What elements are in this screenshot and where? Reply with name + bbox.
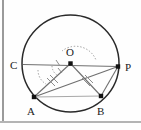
point-marker-O xyxy=(68,61,72,65)
point-marker-A xyxy=(32,95,36,99)
point-marker-B xyxy=(99,94,103,98)
segment-OB xyxy=(71,64,102,97)
label-B: B xyxy=(97,105,104,117)
point-marker-P xyxy=(116,64,120,68)
tick-marks-center xyxy=(56,60,62,73)
figure-canvas: O C P A B xyxy=(0,0,141,130)
label-O: O xyxy=(66,46,74,58)
segment-OA xyxy=(34,64,71,98)
label-P: P xyxy=(125,61,131,73)
label-A: A xyxy=(27,105,35,117)
segment-AP xyxy=(34,67,118,98)
segment-AB xyxy=(34,96,101,97)
label-C: C xyxy=(10,59,17,71)
angle-arc-at-A xyxy=(38,70,46,84)
angle-arc-at-O-small xyxy=(52,66,57,75)
geometry-diagram: O C P A B xyxy=(0,0,141,130)
